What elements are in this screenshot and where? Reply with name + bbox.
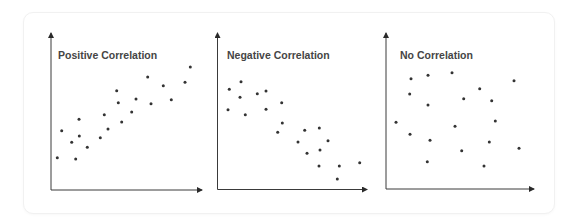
scatter-plots: Positive Correlation Negative Correlatio…: [0, 0, 579, 223]
data-point: [239, 96, 242, 99]
data-point: [256, 92, 259, 95]
data-point: [513, 79, 516, 82]
data-point: [130, 111, 133, 114]
data-point: [78, 118, 81, 121]
data-point: [319, 149, 322, 152]
data-point: [56, 156, 59, 159]
data-point: [426, 160, 429, 163]
data-point: [336, 178, 339, 181]
data-point: [99, 136, 102, 139]
plot-no-correlation: No Correlation: [386, 33, 534, 189]
data-point: [189, 66, 192, 69]
data-point: [146, 76, 149, 79]
data-point: [297, 141, 300, 144]
data-points: [56, 66, 192, 161]
data-point: [410, 77, 413, 80]
plot-positive-correlation: Positive Correlation: [51, 33, 202, 190]
data-point: [395, 121, 398, 124]
data-point: [265, 108, 268, 111]
data-point: [483, 165, 486, 168]
data-point: [306, 152, 309, 155]
data-point: [240, 80, 243, 83]
data-point: [478, 87, 481, 90]
data-point: [78, 135, 81, 138]
data-point: [70, 141, 73, 144]
data-point: [490, 99, 493, 102]
data-point: [281, 122, 284, 125]
data-point: [60, 129, 63, 132]
data-point: [276, 131, 279, 134]
data-point: [227, 108, 230, 111]
data-point: [115, 89, 118, 92]
data-point: [318, 127, 321, 130]
data-point: [494, 120, 497, 123]
data-point: [170, 98, 173, 101]
data-point: [318, 165, 321, 168]
plot-title: No Correlation: [400, 49, 473, 61]
data-point: [303, 129, 306, 132]
data-point: [74, 158, 77, 161]
data-points: [395, 71, 521, 167]
data-point: [117, 101, 120, 104]
data-point: [427, 74, 430, 77]
data-point: [244, 113, 247, 116]
data-point: [488, 141, 491, 144]
data-point: [454, 125, 457, 128]
data-points: [227, 80, 362, 180]
data-point: [338, 165, 341, 168]
data-point: [462, 97, 465, 100]
data-point: [427, 104, 430, 107]
data-point: [327, 139, 330, 142]
data-point: [408, 93, 411, 96]
data-point: [162, 84, 165, 87]
data-point: [280, 101, 283, 104]
data-point: [107, 128, 110, 131]
data-point: [228, 88, 231, 91]
data-point: [460, 149, 463, 152]
data-point: [184, 81, 187, 84]
data-point: [358, 161, 361, 164]
data-point: [150, 102, 153, 105]
data-point: [451, 71, 454, 74]
data-point: [265, 90, 268, 93]
data-point: [429, 139, 432, 142]
data-point: [103, 113, 106, 116]
data-point: [86, 146, 89, 149]
data-point: [409, 133, 412, 136]
plot-title: Negative Correlation: [227, 49, 330, 61]
plot-title: Positive Correlation: [58, 49, 157, 61]
plot-negative-correlation: Negative Correlation: [218, 33, 368, 190]
data-point: [135, 98, 138, 101]
data-point: [518, 147, 521, 150]
data-point: [120, 121, 123, 124]
